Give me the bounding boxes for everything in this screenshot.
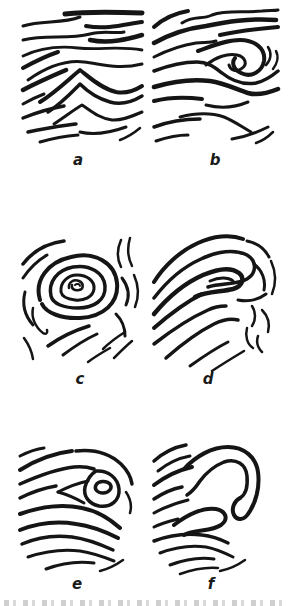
panel-a — [20, 6, 146, 152]
panel-label-f: f — [208, 577, 215, 592]
panel-label-b: b — [210, 153, 221, 168]
fold-pattern-a-drawing — [20, 6, 146, 152]
panel-d — [150, 230, 282, 376]
panel-label-d: d — [203, 372, 214, 387]
figure: a b c d e f — [0, 0, 288, 606]
panel-label-a: a — [73, 153, 83, 168]
fold-pattern-b-drawing — [150, 5, 282, 155]
panel-c — [18, 234, 144, 374]
panel-e — [16, 440, 142, 576]
panel-label-c: c — [76, 372, 85, 387]
clipped-caption-fragment — [4, 600, 284, 606]
panel-f — [150, 437, 282, 577]
fold-pattern-d-drawing — [150, 230, 282, 376]
panel-b — [150, 5, 282, 155]
fold-pattern-c-drawing — [18, 234, 144, 374]
panel-label-e: e — [72, 577, 82, 592]
fold-pattern-e-drawing — [16, 440, 142, 576]
fold-pattern-f-drawing — [150, 437, 282, 577]
